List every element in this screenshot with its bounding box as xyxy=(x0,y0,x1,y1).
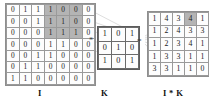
matrix-row: 12433 xyxy=(149,25,209,38)
matrix-cell: 1 xyxy=(44,5,57,16)
matrix-cell: 2 xyxy=(161,38,173,51)
matrix-cell: 1 xyxy=(185,63,197,76)
matrix-cell: 0 xyxy=(69,50,82,61)
matrix-cell: 1 xyxy=(149,25,161,38)
matrix-cell: 1 xyxy=(149,13,161,26)
matrix-cell: 2 xyxy=(161,25,173,38)
matrix-cell: 1 xyxy=(32,16,45,27)
matrix-row: 14341 xyxy=(149,13,209,26)
matrix-cell: 1 xyxy=(32,50,45,61)
matrix-cell: 1 xyxy=(69,27,82,38)
matrix-cell: 0 xyxy=(69,61,82,72)
matrix-cell: 1 xyxy=(112,41,126,55)
matrix-row: 0001110 xyxy=(7,27,95,38)
matrix-cell: 0 xyxy=(7,16,20,27)
matrix-cell: 0 xyxy=(69,73,82,84)
matrix-cell: 0 xyxy=(57,50,70,61)
matrix-row: 010 xyxy=(98,41,139,55)
matrix-cell: 0 xyxy=(69,5,82,16)
matrix-cell: 0 xyxy=(19,27,32,38)
matrix-cell: 0 xyxy=(19,16,32,27)
matrix-cell: 0 xyxy=(82,16,95,27)
matrix-cell: 0 xyxy=(32,73,45,84)
caption-output-IK: I * K xyxy=(163,88,183,98)
matrix-cell: 3 xyxy=(173,38,185,51)
matrix-row: 0011100 xyxy=(7,16,95,27)
matrix-cell: 0 xyxy=(7,27,20,38)
matrix-cell: 1 xyxy=(197,38,209,51)
matrix-row: 0110000 xyxy=(7,61,95,72)
matrix-cell: 0 xyxy=(19,39,32,50)
matrix-cell: 4 xyxy=(173,25,185,38)
matrix-cell: 0 xyxy=(7,5,20,16)
matrix-cell: 0 xyxy=(57,61,70,72)
matrix-cell: 1 xyxy=(98,28,112,42)
matrix-cell: 0 xyxy=(7,61,20,72)
matrix-cell: 0 xyxy=(32,27,45,38)
matrix-cell: 1 xyxy=(44,16,57,27)
matrix-cell: 0 xyxy=(197,63,209,76)
convolution-diagram: 0111000001110000011100001100001100001100… xyxy=(0,0,209,104)
matrix-cell: 3 xyxy=(173,13,185,26)
matrix-cell: 1 xyxy=(197,13,209,26)
matrix-cell: 1 xyxy=(19,5,32,16)
matrix-kernel-K: 101010101 xyxy=(98,27,140,69)
matrix-cell: 1 xyxy=(173,63,185,76)
matrix-cell: 0 xyxy=(69,39,82,50)
matrix-cell: 0 xyxy=(44,73,57,84)
matrix-row: 0011000 xyxy=(7,50,95,61)
matrix-cell: 1 xyxy=(185,50,197,63)
matrix-cell: 3 xyxy=(149,63,161,76)
matrix-cell: 3 xyxy=(173,50,185,63)
caption-input-I: I xyxy=(38,88,42,98)
matrix-cell: 1 xyxy=(44,39,57,50)
matrix-cell: 1 xyxy=(32,61,45,72)
matrix-cell: 0 xyxy=(19,50,32,61)
matrix-output-IK: 1434112433123411331133110 xyxy=(148,12,209,76)
matrix-cell: 4 xyxy=(161,13,173,26)
matrix-cell: 1 xyxy=(149,50,161,63)
matrix-row: 12341 xyxy=(149,38,209,51)
matrix-cell: 1 xyxy=(57,27,70,38)
matrix-cell: 1 xyxy=(32,5,45,16)
matrix-cell: 0 xyxy=(82,5,95,16)
caption-kernel-K: K xyxy=(101,88,108,98)
matrix-cell: 3 xyxy=(161,63,173,76)
matrix-cell: 0 xyxy=(98,41,112,55)
matrix-cell: 1 xyxy=(57,16,70,27)
operator-convolve: * xyxy=(89,36,93,45)
matrix-cell: 4 xyxy=(185,13,197,26)
matrix-cell: 0 xyxy=(32,39,45,50)
matrix-cell: 0 xyxy=(82,73,95,84)
matrix-cell: 0 xyxy=(7,39,20,50)
matrix-row: 33110 xyxy=(149,63,209,76)
matrix-cell: 1 xyxy=(98,55,112,69)
matrix-row: 101 xyxy=(98,55,139,69)
matrix-cell: 0 xyxy=(112,28,126,42)
matrix-input-I: 0111000001110000011100001100001100001100… xyxy=(6,4,95,85)
matrix-cell: 3 xyxy=(161,50,173,63)
matrix-cell: 1 xyxy=(44,27,57,38)
matrix-cell: 1 xyxy=(149,38,161,51)
matrix-cell: 3 xyxy=(185,25,197,38)
matrix-cell: 1 xyxy=(125,55,139,69)
matrix-row: 1100000 xyxy=(7,73,95,84)
matrix-row: 0001100 xyxy=(7,39,95,50)
operator-equals: = xyxy=(137,36,142,45)
matrix-cell: 0 xyxy=(112,55,126,69)
matrix-cell: 4 xyxy=(185,38,197,51)
matrix-cell: 0 xyxy=(82,61,95,72)
matrix-cell: 0 xyxy=(44,61,57,72)
matrix-cell: 0 xyxy=(57,5,70,16)
matrix-cell: 0 xyxy=(7,50,20,61)
matrix-cell: 1 xyxy=(19,73,32,84)
matrix-cell: 0 xyxy=(82,50,95,61)
matrix-row: 13311 xyxy=(149,50,209,63)
matrix-cell: 1 xyxy=(19,61,32,72)
matrix-cell: 3 xyxy=(197,25,209,38)
matrix-row: 101 xyxy=(98,28,139,42)
matrix-cell: 0 xyxy=(57,73,70,84)
matrix-cell: 0 xyxy=(69,16,82,27)
matrix-cell: 1 xyxy=(57,39,70,50)
matrix-cell: 1 xyxy=(44,50,57,61)
